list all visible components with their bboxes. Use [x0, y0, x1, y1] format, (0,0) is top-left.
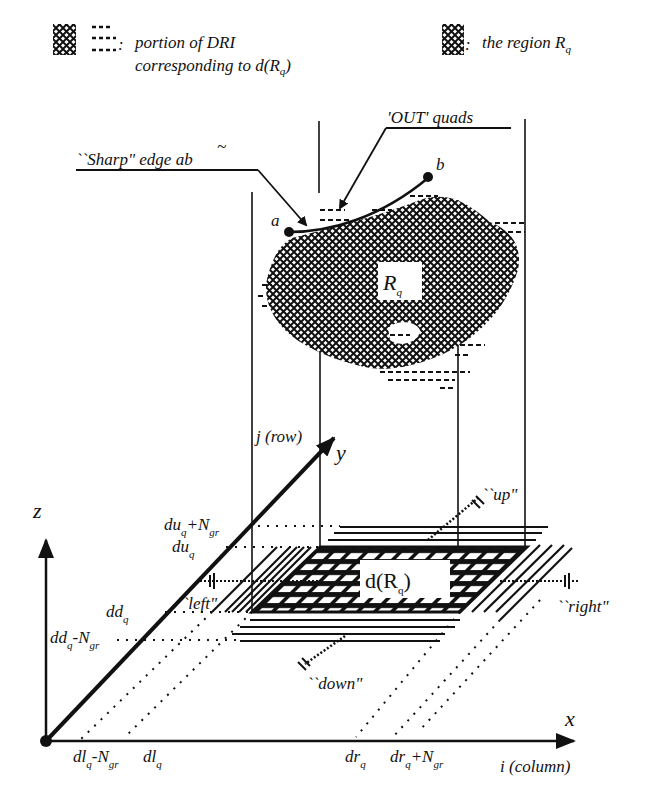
right-direction-label: ``right" [557, 597, 609, 616]
crosshatch-swatch-icon [53, 24, 76, 55]
legend-left-line2: corresponding to d(Rq) [135, 56, 291, 77]
x-tick-dl-minus: dlq-Ngr [73, 747, 119, 770]
point-a-marker [284, 227, 294, 237]
diagram-canvas: : portion of DRI corresponding to d(Rq) … [0, 0, 661, 796]
x-tick-labels: dlq-Ngr dlq drq drq+Ngr [73, 747, 444, 770]
x-tick-dl: dlq [143, 747, 162, 770]
crosshatch-swatch-icon [442, 24, 464, 55]
out-quads-label: 'OUT' quads [387, 108, 474, 127]
up-direction-label: ``up" [482, 485, 518, 504]
diagram-svg: : portion of DRI corresponding to d(Rq) … [0, 0, 661, 796]
origin-marker [40, 735, 52, 747]
up-guard-lines [328, 527, 548, 540]
x-axis-label: x [564, 706, 575, 731]
legend-left-line1: portion of DRI [134, 33, 236, 52]
down-direction-label: ``down" [307, 674, 363, 693]
y-axis-caption: j (row) [254, 427, 302, 446]
x-axis-caption: i (column) [500, 757, 571, 776]
sharp-edge-tilde: ~ [217, 137, 226, 156]
legend: : portion of DRI corresponding to d(Rq) … [53, 24, 571, 77]
projection-label: d(Rq) [365, 568, 411, 596]
sharp-edge-label: ``Sharp" edge ab [76, 150, 193, 169]
down-guard-lines [232, 620, 460, 641]
point-b-marker [423, 172, 433, 182]
legend-right-text: the region Rq [482, 33, 571, 55]
point-a-label: a [271, 211, 280, 230]
dashed-swatch-icon [92, 27, 116, 50]
z-axis-label: z [32, 498, 42, 523]
y-axis-label: y [334, 440, 346, 465]
x-tick-dr: drq [345, 747, 366, 770]
point-b-label: b [436, 155, 445, 174]
x-tick-dr-plus: drq+Ngr [390, 747, 444, 770]
callout-out-quads: 'OUT' quads [340, 108, 511, 208]
region-rq: Rq [258, 196, 525, 388]
y-tick-dd: ddq [106, 602, 129, 625]
y-tick-dd-minus: ddq-Ngr [50, 628, 100, 651]
projection-grid: d(Rq) [212, 527, 572, 641]
legend-colon-left: : [118, 35, 124, 54]
y-tick-du-plus: duq+Ngr [164, 515, 220, 538]
legend-colon-right: : [465, 35, 471, 54]
y-tick-du: duq [172, 537, 195, 560]
